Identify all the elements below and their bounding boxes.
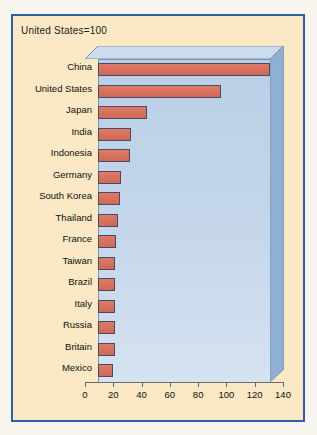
bar-row: Germany bbox=[98, 167, 270, 189]
bar-row: Thailand bbox=[98, 210, 270, 232]
x-axis-tick-label: 40 bbox=[136, 389, 147, 400]
category-label: Brazil bbox=[68, 275, 92, 289]
bar-row: Indonesia bbox=[98, 145, 270, 167]
bar bbox=[98, 85, 221, 98]
bar-row: Russia bbox=[98, 317, 270, 339]
category-label: France bbox=[62, 232, 92, 246]
bar-row: South Korea bbox=[98, 188, 270, 210]
category-label: Mexico bbox=[62, 361, 92, 375]
category-label: South Korea bbox=[39, 189, 92, 203]
x-axis-tick bbox=[142, 382, 143, 387]
bar-row: India bbox=[98, 124, 270, 146]
bar bbox=[98, 257, 115, 270]
x-axis-tick-label: 120 bbox=[247, 389, 263, 400]
plot-box-right-face bbox=[270, 46, 284, 382]
category-label: Russia bbox=[63, 318, 92, 332]
bar bbox=[98, 278, 115, 291]
bar-row: Italy bbox=[98, 296, 270, 318]
plot-area: ChinaUnited StatesJapanIndiaIndonesiaGer… bbox=[0, 0, 317, 435]
x-axis-tick bbox=[283, 382, 284, 387]
bar bbox=[98, 128, 131, 141]
x-axis-tick-label: 20 bbox=[108, 389, 119, 400]
bar-row: France bbox=[98, 231, 270, 253]
bar bbox=[98, 192, 120, 205]
bar-row: China bbox=[98, 59, 270, 81]
x-axis-tick-label: 80 bbox=[193, 389, 204, 400]
x-axis-tick-label: 0 bbox=[82, 389, 87, 400]
category-label: Thailand bbox=[56, 211, 92, 225]
category-label: United States bbox=[35, 82, 92, 96]
bar bbox=[98, 343, 115, 356]
bar-row: Britain bbox=[98, 339, 270, 361]
bar bbox=[98, 171, 121, 184]
bar-row: Brazil bbox=[98, 274, 270, 296]
x-axis-tick-label: 60 bbox=[165, 389, 176, 400]
bar-row: Mexico bbox=[98, 360, 270, 382]
bar-series: ChinaUnited StatesJapanIndiaIndonesiaGer… bbox=[98, 59, 270, 382]
x-axis-tick-label: 140 bbox=[275, 389, 291, 400]
bar bbox=[98, 300, 115, 313]
x-axis-tick-label: 100 bbox=[218, 389, 234, 400]
bar bbox=[98, 364, 113, 377]
category-label: India bbox=[71, 125, 92, 139]
chart-figure: United States=100 ChinaUnited StatesJapa… bbox=[0, 0, 317, 435]
bar-row: Japan bbox=[98, 102, 270, 124]
bar bbox=[98, 214, 118, 227]
bar bbox=[98, 149, 130, 162]
bar-row: United States bbox=[98, 81, 270, 103]
category-label: Indonesia bbox=[51, 146, 92, 160]
x-axis-tick bbox=[170, 382, 171, 387]
bar bbox=[98, 63, 270, 76]
plot-box-top-face bbox=[85, 46, 283, 59]
category-label: Britain bbox=[65, 340, 92, 354]
bar bbox=[98, 235, 116, 248]
x-axis-tick bbox=[85, 382, 86, 387]
x-axis-tick bbox=[113, 382, 114, 387]
x-axis-tick bbox=[198, 382, 199, 387]
category-label: Italy bbox=[75, 297, 92, 311]
category-label: China bbox=[67, 60, 92, 74]
category-label: Germany bbox=[53, 168, 92, 182]
bar bbox=[98, 106, 147, 119]
bar bbox=[98, 321, 115, 334]
x-axis-tick bbox=[255, 382, 256, 387]
x-axis-tick bbox=[226, 382, 227, 387]
category-label: Taiwan bbox=[62, 254, 92, 268]
bar-row: Taiwan bbox=[98, 253, 270, 275]
category-label: Japan bbox=[66, 103, 92, 117]
